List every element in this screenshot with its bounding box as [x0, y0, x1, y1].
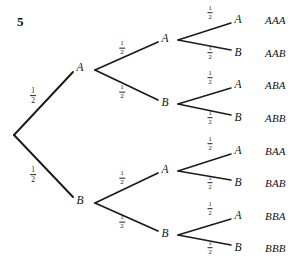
edge-ab [95, 70, 158, 100]
branch-probability-a: 12 [30, 87, 36, 105]
fraction-denominator: 2 [119, 179, 125, 186]
branch-probability-abb: 12 [208, 110, 213, 126]
fraction-numerator: 1 [208, 240, 213, 247]
fraction-numerator: 1 [30, 166, 36, 174]
edge-aa [95, 42, 158, 70]
branch-probability-bbb: 12 [208, 240, 213, 256]
tree-node-bb: B [161, 228, 168, 240]
tree-node-ab: B [161, 97, 168, 109]
outcome-label-bbb: BBB [265, 243, 286, 254]
edge-baa [178, 154, 231, 171]
outcome-label-aba: ABA [265, 80, 286, 91]
branch-probability-ab: 12 [119, 84, 125, 101]
fraction-denominator: 2 [208, 119, 213, 126]
probability-tree-diagram: 5 A12B12A12B12A12B12A12AAAB12AABA12ABAB1… [0, 0, 302, 268]
fraction-numerator: 1 [208, 110, 213, 117]
branch-probability-bab: 12 [208, 175, 213, 191]
fraction-numerator: 1 [30, 87, 36, 95]
fraction-denominator: 2 [208, 54, 213, 61]
fraction-denominator: 2 [208, 184, 213, 191]
branch-probability-bb: 12 [119, 214, 125, 231]
tree-node-ba: A [161, 164, 168, 176]
tree-node-baa: A [234, 145, 241, 157]
branch-probability-aaa: 12 [208, 5, 213, 21]
fraction-numerator: 1 [119, 40, 125, 47]
fraction-numerator: 1 [208, 175, 213, 182]
branch-probability-ba: 12 [119, 170, 125, 187]
edge-abb [178, 104, 231, 115]
fraction-numerator: 1 [119, 170, 125, 177]
tree-node-aab: B [234, 47, 241, 59]
tree-node-bba: A [234, 210, 241, 222]
outcome-label-aaa: AAA [265, 15, 286, 26]
fraction-denominator: 2 [208, 145, 213, 152]
fraction-numerator: 1 [208, 136, 213, 143]
outcome-label-aab: AAB [265, 48, 286, 59]
fraction-denominator: 2 [30, 176, 36, 184]
fraction-denominator: 2 [119, 93, 125, 100]
fraction-denominator: 2 [208, 79, 213, 86]
edge-aab [178, 40, 231, 50]
fraction-numerator: 1 [119, 84, 125, 91]
branch-probability-aa: 12 [119, 40, 125, 57]
outcome-label-abb: ABB [265, 113, 286, 124]
edge-root-a [14, 72, 73, 135]
edge-ba [95, 173, 158, 203]
fraction-numerator: 1 [208, 70, 213, 77]
branch-probability-b: 12 [30, 166, 36, 184]
problem-number: 5 [17, 15, 24, 28]
tree-node-aa: A [161, 33, 168, 45]
edge-bb [95, 203, 158, 231]
branch-probability-aab: 12 [208, 45, 213, 61]
fraction-denominator: 2 [30, 97, 36, 105]
fraction-denominator: 2 [119, 223, 125, 230]
edge-aaa [178, 23, 231, 40]
tree-node-abb: B [234, 112, 241, 124]
fraction-numerator: 1 [119, 214, 125, 221]
tree-node-bbb: B [234, 242, 241, 254]
branch-probability-bba: 12 [208, 201, 213, 217]
fraction-numerator: 1 [208, 5, 213, 12]
outcome-label-baa: BAA [265, 146, 286, 157]
outcome-label-bab: BAB [265, 178, 286, 189]
edge-bab [178, 171, 231, 180]
tree-edges [0, 0, 302, 268]
fraction-denominator: 2 [208, 14, 213, 21]
outcome-label-bba: BBA [265, 211, 286, 222]
fraction-denominator: 2 [208, 210, 213, 217]
tree-node-aba: A [234, 79, 241, 91]
branch-probability-baa: 12 [208, 136, 213, 152]
tree-node-aaa: A [234, 14, 241, 26]
tree-node-a: A [76, 62, 83, 74]
fraction-numerator: 1 [208, 201, 213, 208]
edge-bba [178, 219, 231, 235]
fraction-numerator: 1 [208, 45, 213, 52]
tree-node-b: B [76, 195, 83, 207]
fraction-denominator: 2 [208, 249, 213, 256]
fraction-denominator: 2 [119, 49, 125, 56]
edge-root-b [14, 135, 73, 197]
edge-aba [178, 88, 231, 104]
branch-probability-aba: 12 [208, 70, 213, 86]
tree-node-bab: B [234, 177, 241, 189]
edge-bbb [178, 235, 231, 245]
